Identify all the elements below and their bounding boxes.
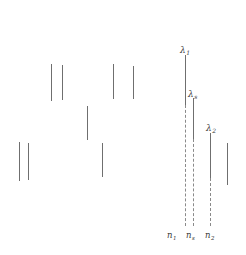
wavelength-label-symbol: λ <box>180 45 186 55</box>
right-edge-line <box>227 143 228 185</box>
wavelength-label-symbol: λ <box>188 89 194 99</box>
index-label-subscript: 2 <box>210 235 214 241</box>
wavelength-label-1: λ1 <box>180 46 190 56</box>
spectral-line-2 <box>62 65 63 100</box>
spectral-line-7 <box>28 143 29 180</box>
lambda-2-dashed <box>210 178 211 226</box>
index-label-1: n1 <box>167 231 176 241</box>
index-label-s: ns <box>186 231 195 241</box>
lambda-2-solid <box>210 133 211 178</box>
wavelength-label-subscript: 1 <box>186 49 190 56</box>
wavelength-label-s: λs <box>188 90 197 100</box>
lambda-1-solid <box>185 55 186 105</box>
lambda-s-solid <box>193 98 194 139</box>
spectral-line-3 <box>113 64 114 99</box>
wavelength-label-2: λ2 <box>206 124 216 134</box>
spectral-line-4 <box>133 66 134 99</box>
spectral-line-8 <box>102 143 103 177</box>
spectral-line-1 <box>51 64 52 101</box>
wavelength-label-subscript: s <box>194 93 198 100</box>
spectral-line-6 <box>19 142 20 181</box>
spectral-line-5 <box>87 106 88 140</box>
index-label-subscript: 1 <box>172 235 176 241</box>
diagram-canvas: λ1λsλ2 n1nsn2 <box>0 0 246 255</box>
wavelength-label-symbol: λ <box>206 123 212 133</box>
lambda-s-dashed <box>193 139 194 226</box>
wavelength-label-subscript: 2 <box>212 127 216 134</box>
index-label-subscript: s <box>191 235 194 241</box>
index-label-2: n2 <box>205 231 214 241</box>
lambda-1-dashed <box>185 105 186 226</box>
